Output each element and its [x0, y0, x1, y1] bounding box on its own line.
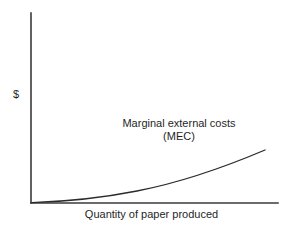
y-axis-label: $ — [13, 88, 19, 101]
mec-chart-figure: $ Marginal external costs (MEC) Quantity… — [0, 0, 289, 237]
mec-curve-annotation: Marginal external costs (MEC) — [108, 117, 250, 142]
mec-annotation-line-1: Marginal external costs — [122, 117, 235, 129]
x-axis-label: Quantity of paper produced — [0, 208, 289, 221]
mec-curve — [32, 150, 265, 203]
mec-annotation-line-2: (MEC) — [108, 130, 250, 143]
